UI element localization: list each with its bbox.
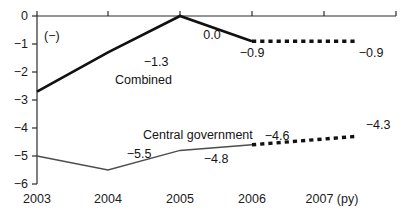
data-label-combined-2005: 0.0	[195, 29, 229, 42]
chart-figure: (−) 0 −1 −2 −3 −4 −5 −6 2003 2004 2005 2…	[0, 0, 407, 218]
series-label-central-government: Central government	[143, 129, 253, 142]
y-tick-label-4: −4	[2, 122, 28, 135]
unit-annotation: (−)	[44, 30, 60, 43]
y-tick-label-5: −5	[2, 150, 28, 163]
data-label-central-2006: −4.6	[257, 130, 297, 143]
y-tick-label-6: −6	[2, 178, 28, 191]
series-label-combined: Combined	[115, 74, 172, 87]
x-tick-label-2007: 2007 (py)	[292, 193, 372, 206]
y-tick-label-3: −3	[2, 94, 28, 107]
x-tick-label-2006: 2006	[212, 193, 292, 206]
data-label-combined-2007: −0.9	[351, 47, 391, 60]
y-tick-marks	[32, 16, 37, 184]
y-tick-label-2: −2	[2, 66, 28, 79]
x-tick-marks	[37, 11, 396, 16]
data-label-central-2004: −5.5	[119, 148, 159, 161]
data-label-central-2007: −4.3	[358, 119, 398, 132]
data-label-combined-2006: −0.9	[232, 47, 272, 60]
x-tick-label-2004: 2004	[68, 193, 148, 206]
y-tick-label-1: −1	[2, 38, 28, 51]
x-tick-label-2003: 2003	[0, 193, 77, 206]
data-label-combined-2004: −1.3	[136, 56, 176, 69]
data-label-central-2005: −4.8	[196, 153, 236, 166]
y-tick-label-0: 0	[2, 10, 28, 23]
x-tick-label-2005: 2005	[140, 193, 220, 206]
